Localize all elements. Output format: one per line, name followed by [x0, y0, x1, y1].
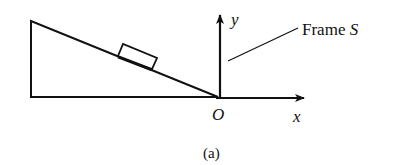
frame-leader-line	[228, 28, 298, 61]
origin-label: O	[212, 105, 224, 124]
frame-label-prefix: Frame	[302, 20, 350, 39]
frame-label: Frame S	[302, 20, 359, 39]
inclined-plane-figure: y Frame S O x (a)	[0, 0, 407, 165]
frame-label-symbol: S	[350, 20, 359, 39]
x-axis-label: x	[292, 107, 301, 126]
figure-caption: (a)	[203, 145, 220, 162]
y-axis-label: y	[229, 10, 239, 29]
figure-canvas: y Frame S O x (a)	[0, 0, 407, 165]
